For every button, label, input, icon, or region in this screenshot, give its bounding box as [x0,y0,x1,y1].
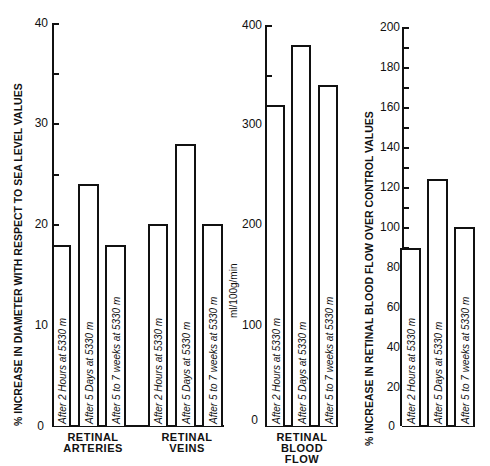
tick-label: 20 [18,218,48,230]
bar-increase-2h: After 2 Hours at 5330 m [400,248,421,426]
tick [402,87,409,89]
group-label-veins: RETINAL VEINS [152,432,222,454]
group-label-line: ARTERIES [58,443,128,454]
tick [402,107,409,109]
group-label-line: RETINAL BLOOD [256,432,348,454]
tick [52,73,59,75]
tick [402,147,409,149]
tick-label: 0 [365,420,395,432]
tick-label: 200 [232,218,262,230]
tick-label: 0 [228,414,258,426]
tick-label: 10 [18,319,48,331]
group-label-arteries: RETINAL ARTERIES [58,432,128,454]
bar-increase-5d: After 5 Days at 5330 m [427,179,448,426]
tick [265,25,272,27]
y-axis-label-diameter: % INCREASE IN DIAMETER WITH RESPECT TO S… [12,83,24,426]
tick-label: 120 [370,181,400,193]
tick [402,167,409,169]
group-label-blood-flow: RETINAL BLOOD FLOW [256,432,348,465]
tick-label: 80 [370,261,400,273]
bar-flow-5-7w: After 5 to 7 weeks at 5330 m [318,85,338,426]
y-axis-label-flow: ml/100g/min [228,264,239,318]
bar-arteries-5d: After 5 Days at 5330 m [78,184,99,426]
bar-increase-5-7w: After 5 to 7 weeks at 5330 m [454,227,475,426]
tick-label: 200 [370,21,400,33]
tick [402,47,409,49]
tick [52,174,59,176]
tick [402,187,409,189]
tick [402,207,409,209]
tick [52,224,59,226]
tick-label: 180 [370,61,400,73]
group-label-line: VEINS [152,443,222,454]
tick-label: 140 [370,141,400,153]
tick-label: 20 [370,381,400,393]
tick [52,123,59,125]
bar-veins-5d: After 5 Days at 5330 m [175,144,196,426]
tick [52,23,59,25]
tick-label: 60 [370,301,400,313]
tick [265,75,272,77]
bar-veins-2h: After 2 Hours at 5330 m [148,224,168,426]
tick-label: 160 [370,101,400,113]
tick-label: 0 [14,420,44,432]
bar-arteries-2h: After 2 Hours at 5330 m [52,245,71,426]
bar-veins-5-7w: After 5 to 7 weeks at 5330 m [202,224,223,426]
tick-label: 100 [232,319,262,331]
tick-label: 40 [18,17,48,29]
tick-label: 30 [18,117,48,129]
tick [402,127,409,129]
tick [402,227,409,229]
y-axis-label-flow-increase: % INCREASE IN RETINAL BLOOD FLOW OVER CO… [363,111,375,446]
tick-label: 100 [370,221,400,233]
tick-label: 300 [232,118,262,130]
group-label-line: FLOW [256,454,348,465]
tick-label: 40 [370,341,400,353]
tick-label: 400 [232,19,262,31]
bar-flow-5d: After 5 Days at 5330 m [291,45,311,426]
tick [402,67,409,69]
bar-arteries-5-7w: After 5 to 7 weeks at 5330 m [105,245,126,426]
tick [402,27,409,29]
bar-flow-2h: After 2 Hours at 5330 m [265,105,285,426]
